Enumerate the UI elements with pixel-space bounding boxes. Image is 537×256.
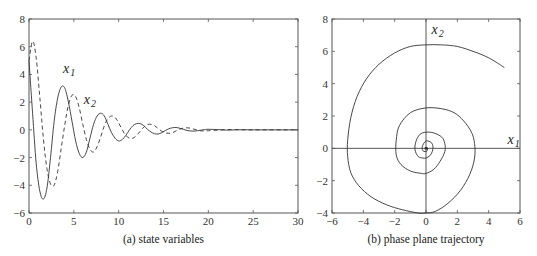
x-tick-label: −4 — [357, 215, 369, 227]
var-label-x2: x2 — [430, 22, 443, 39]
x-tick-label: 10 — [113, 215, 125, 227]
x-tick-label: 25 — [248, 215, 260, 227]
chart-state-variables: 051015202530−6−4−202468x1x2(a) state var… — [13, 13, 304, 246]
y-tick-label: −2 — [316, 175, 328, 187]
y-tick-label: 2 — [323, 110, 329, 122]
var-label-x2: x2 — [83, 92, 96, 109]
var-label-x1: x1 — [506, 132, 519, 149]
y-tick-label: 8 — [323, 13, 329, 25]
plot-frame — [29, 19, 298, 213]
figure-canvas: 051015202530−6−4−202468x1x2(a) state var… — [0, 0, 537, 256]
y-tick-label: 4 — [20, 68, 26, 80]
y-tick-label: 0 — [323, 142, 329, 154]
y-tick-label: −4 — [13, 179, 25, 191]
x-tick-label: 15 — [158, 215, 170, 227]
y-tick-label: −4 — [316, 207, 328, 219]
x-tick-label: 0 — [423, 215, 429, 227]
series-x2 — [29, 41, 298, 186]
y-tick-label: 6 — [20, 41, 26, 53]
x-tick-label: 5 — [71, 215, 77, 227]
chart-caption: (b) phase plane trajectory — [367, 233, 484, 246]
y-tick-label: 0 — [20, 124, 26, 136]
x-tick-label: 0 — [26, 215, 32, 227]
x-tick-label: 30 — [293, 215, 305, 227]
y-tick-label: 6 — [323, 45, 329, 57]
x-tick-label: 2 — [455, 215, 461, 227]
x-tick-label: 6 — [517, 215, 523, 227]
y-tick-label: −6 — [13, 207, 25, 219]
equilibrium-point — [425, 147, 428, 150]
var-label-x1: x1 — [62, 61, 75, 78]
x-tick-label: 4 — [486, 215, 492, 227]
chart-phase-plane: −6−4−20246−4−202468x1x2(b) phase plane t… — [316, 13, 523, 246]
x-tick-label: 20 — [203, 215, 215, 227]
y-tick-label: −2 — [13, 152, 25, 164]
chart-caption: (a) state variables — [123, 233, 205, 246]
x-tick-label: −2 — [389, 215, 401, 227]
y-tick-label: 2 — [20, 96, 26, 108]
y-tick-label: 8 — [20, 13, 26, 25]
y-tick-label: 4 — [323, 78, 329, 90]
